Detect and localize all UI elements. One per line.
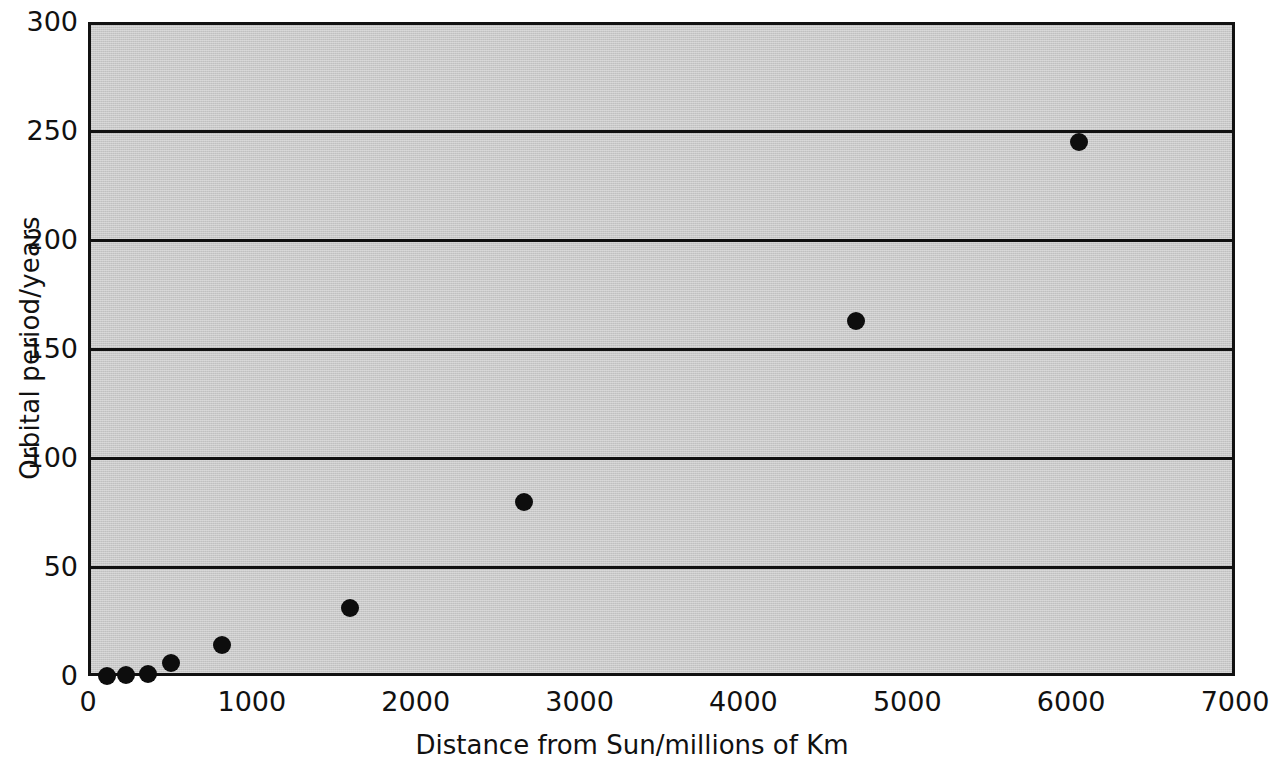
x-tick-label-4000: 4000 (683, 688, 803, 715)
plot-top-border (91, 22, 1235, 25)
data-point (162, 654, 180, 672)
x-tick-label-7000: 7000 (1175, 688, 1273, 715)
data-point (98, 667, 116, 685)
data-point (139, 665, 157, 683)
plot-area (88, 22, 1235, 676)
x-tick-label-1000: 1000 (192, 688, 312, 715)
gridline-y-200 (91, 239, 1235, 242)
x-tick-label-5000: 5000 (847, 688, 967, 715)
data-point (515, 493, 533, 511)
x-tick-label-3000: 3000 (520, 688, 640, 715)
x-axis-title: Distance from Sun/millions of Km (0, 730, 1264, 760)
data-point (117, 666, 135, 684)
gridline-y-100 (91, 457, 1235, 460)
x-tick-label-0: 0 (28, 688, 148, 715)
data-point (847, 312, 865, 330)
gridline-y-250 (91, 130, 1235, 133)
x-tick-label-6000: 6000 (1011, 688, 1131, 715)
gridline-y-150 (91, 348, 1235, 351)
gridline-y-50 (91, 566, 1235, 569)
y-axis-title: Orbital period/years (15, 108, 45, 588)
data-point (213, 636, 231, 654)
x-tick-label-2000: 2000 (356, 688, 476, 715)
y-tick-label-300: 300 (2, 8, 78, 35)
y-tick-label-0: 0 (2, 662, 78, 689)
data-point (1070, 133, 1088, 151)
data-point (341, 599, 359, 617)
